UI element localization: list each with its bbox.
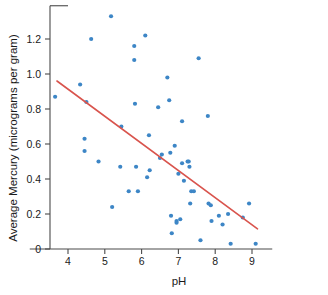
data-point xyxy=(96,159,100,163)
data-point xyxy=(226,212,230,216)
x-tick-label: 6 xyxy=(139,255,145,267)
x-tick-label: 5 xyxy=(102,255,108,267)
mercury-vs-ph-scatter-chart: 456789 00.20.40.60.81.01.2 pH Average Me… xyxy=(0,0,328,295)
data-point xyxy=(89,37,93,41)
data-point xyxy=(136,189,140,193)
data-point xyxy=(229,242,233,246)
data-point xyxy=(78,82,82,86)
data-point xyxy=(187,159,191,163)
data-point xyxy=(220,222,224,226)
data-point xyxy=(178,217,182,221)
data-point xyxy=(82,149,86,153)
data-point xyxy=(134,165,138,169)
data-point xyxy=(180,119,184,123)
data-point xyxy=(198,238,202,242)
data-point xyxy=(217,214,221,218)
y-tick-label: 0.6 xyxy=(26,138,41,150)
y-tick-label: 1.0 xyxy=(26,68,41,80)
x-tick-label: 9 xyxy=(249,255,255,267)
data-point xyxy=(132,44,136,48)
data-point xyxy=(148,168,152,172)
chart-canvas: 456789 00.20.40.60.81.01.2 pH Average Me… xyxy=(0,0,328,295)
data-point xyxy=(247,201,251,205)
data-point xyxy=(132,58,136,62)
data-point xyxy=(145,175,149,179)
data-point xyxy=(133,102,137,106)
data-point xyxy=(110,205,114,209)
x-axis-label: pH xyxy=(172,275,187,287)
tick-marks xyxy=(45,39,252,254)
data-point xyxy=(182,179,186,183)
data-point xyxy=(147,133,151,137)
data-point xyxy=(53,95,57,99)
y-tick-labels: 00.20.40.60.81.01.2 xyxy=(26,33,41,255)
y-tick-label: 0.2 xyxy=(26,208,41,220)
data-point xyxy=(188,201,192,205)
x-tick-labels: 456789 xyxy=(65,255,255,267)
y-tick-label: 0 xyxy=(35,243,41,255)
data-point xyxy=(254,242,258,246)
data-point xyxy=(160,152,164,156)
data-point xyxy=(192,189,196,193)
data-point xyxy=(118,165,122,169)
y-tick-label: 1.2 xyxy=(26,33,41,45)
x-tick-label: 4 xyxy=(65,255,71,267)
data-point xyxy=(169,214,173,218)
data-point xyxy=(187,165,191,169)
data-point xyxy=(82,137,86,141)
data-point xyxy=(173,144,177,148)
data-point xyxy=(143,33,147,37)
y-tick-label: 0.4 xyxy=(26,173,41,185)
y-tick-label: 0.8 xyxy=(26,103,41,115)
data-point xyxy=(197,56,201,60)
data-point xyxy=(109,14,113,18)
data-point xyxy=(209,219,213,223)
data-point xyxy=(167,98,171,102)
data-point xyxy=(209,203,213,207)
data-point xyxy=(174,221,178,225)
trend-line xyxy=(57,81,258,229)
data-point xyxy=(206,114,210,118)
data-point xyxy=(165,75,169,79)
data-point xyxy=(156,105,160,109)
data-point xyxy=(170,231,174,235)
data-points xyxy=(53,14,258,246)
regression-line xyxy=(57,81,258,229)
data-point xyxy=(180,161,184,165)
y-axis-label: Average Mercury (micrograms per gram) xyxy=(7,34,19,242)
data-point xyxy=(168,151,172,155)
data-point xyxy=(127,189,131,193)
x-tick-label: 8 xyxy=(212,255,218,267)
x-tick-label: 7 xyxy=(175,255,181,267)
